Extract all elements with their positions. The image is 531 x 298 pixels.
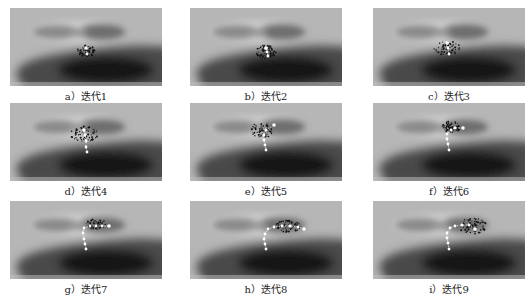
panel-caption: c）迭代3 [373,91,525,103]
landscape-image [10,103,162,181]
panel-caption: a）迭代1 [10,91,162,103]
landscape-image [10,8,162,86]
panel-caption: f）迭代6 [373,186,525,198]
landscape-image [10,201,162,279]
panel-caption: i）迭代9 [373,284,525,296]
iteration-panel-h: h）迭代8 [190,201,342,279]
iteration-panel-g: g）迭代7 [10,201,162,279]
iteration-panel-i: i）迭代9 [373,201,525,279]
landscape-image [190,201,342,279]
iteration-panel-d: d）迭代4 [10,103,162,181]
panel-caption: d）迭代4 [10,186,162,198]
landscape-image [190,103,342,181]
panel-caption: g）迭代7 [10,284,162,296]
landscape-image [373,8,525,86]
panel-caption: h）迭代8 [190,284,342,296]
panel-caption: b）迭代2 [190,91,342,103]
iteration-panel-a: a）迭代1 [10,8,162,86]
iteration-panel-e: e）迭代5 [190,103,342,181]
landscape-image [373,103,525,181]
iteration-panel-c: c）迭代3 [373,8,525,86]
landscape-image [373,201,525,279]
landscape-image [190,8,342,86]
panel-caption: e）迭代5 [190,186,342,198]
iteration-panel-b: b）迭代2 [190,8,342,86]
iteration-panel-f: f）迭代6 [373,103,525,181]
